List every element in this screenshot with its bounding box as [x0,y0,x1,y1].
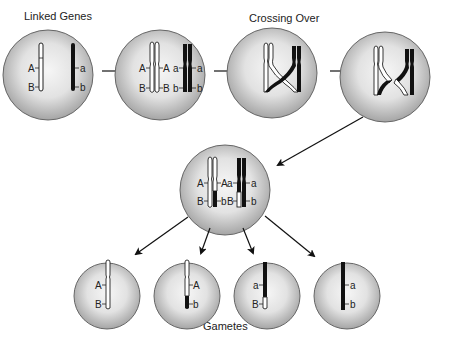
gamete-allele-bottom: b [350,299,356,310]
gamete-allele-top: A [193,280,200,291]
chromatid-light [264,43,268,92]
cell-body [3,30,93,120]
arrow-to-gamete-3-icon [243,228,253,253]
arrow-to-gamete-1-icon [136,217,188,254]
cell-exchanged [340,32,430,122]
cell-body [314,263,380,329]
cell-linked-genes: A B a b [3,30,93,120]
chromosome-dark [341,262,345,310]
allele-a: a [251,178,257,189]
allele-a: a [227,178,233,189]
chromosome-dark-segment [185,296,189,309]
chromatid-light [374,46,378,95]
allele-a: a [197,63,203,74]
chromatid-light [150,42,154,93]
cell-recombinant: A B A b a B a b [180,145,270,235]
allele-B: B [197,196,204,207]
gamete-Ab: A b [154,260,220,329]
arrow-diagonal-icon [278,117,363,165]
allele-b: b [173,83,179,94]
gamete-allele-top: A [95,280,102,291]
chromosome-light-segment [263,297,267,309]
chromosome-light-segment [185,260,189,296]
chromatid-AB [208,157,212,208]
gamete-AB: A B [74,260,140,329]
allele-B: B [28,82,35,93]
gamete-allele-bottom: B [252,299,259,310]
chromatid-Ab [213,157,217,191]
chromatid-light [155,42,159,93]
gamete-aB: a B [234,262,300,329]
allele-A: A [28,63,35,74]
cell-body [227,28,317,118]
chromatid-Ab-dark-segment [213,191,217,207]
allele-b: b [197,83,203,94]
allele-B: B [139,83,146,94]
cell-crossing-over [227,28,317,118]
chromatid-dark [297,46,301,92]
label-gametes: Gametes [203,320,248,332]
chromosome-dark-segment [263,262,267,297]
allele-a: a [80,63,86,74]
chromosome-light [106,260,110,309]
chromatid-dark [188,44,192,92]
allele-b: b [251,196,257,207]
chromatid-ab [242,158,246,207]
label-crossing-over: Crossing Over [249,12,320,24]
arrow-to-gamete-4-icon [265,216,314,256]
linked-genes-crossing-over-diagram: Linked Genes Crossing Over Gametes A B a… [0,0,452,342]
chromatid-dark [410,49,414,95]
arrow-to-gamete-2-icon [201,228,210,253]
allele-A: A [163,63,170,74]
chromatid-dark [183,44,187,92]
allele-A: A [139,63,146,74]
allele-B: B [227,196,234,207]
cell-body [180,145,270,235]
cell-replicated: A B A B a b a b [115,30,205,120]
label-linked-genes: Linked Genes [24,10,92,22]
gamete-allele-bottom: B [95,299,102,310]
chromosome-dark [71,43,75,91]
gamete-ab: a b [314,262,380,329]
allele-b: b [80,82,86,93]
gamete-allele-top: a [253,280,259,291]
gamete-allele-top: a [350,280,356,291]
allele-A: A [197,178,204,189]
chromosome-light [39,43,43,91]
allele-a: a [173,63,179,74]
allele-B: B [163,83,170,94]
chromatid-aB-light-segment [237,192,241,207]
gamete-allele-bottom: b [193,299,199,310]
chromatid-aB [237,158,241,192]
